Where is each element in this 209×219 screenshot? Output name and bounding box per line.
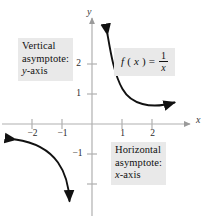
horizontal-asymptote-line3: x-axis xyxy=(115,169,162,182)
vertical-asymptote-line2: asymptote: xyxy=(22,53,69,66)
function-equation-label: f(x) = 1 x xyxy=(114,48,175,76)
vertical-asymptote-line3: y-axis xyxy=(22,65,69,78)
horizontal-asymptote-axis-suffix: -axis xyxy=(120,169,141,180)
fraction-denominator: x xyxy=(159,62,168,72)
function-name: f xyxy=(121,56,124,67)
horizontal-asymptote-line2: asymptote: xyxy=(115,157,162,170)
y-tick-label-pos1: 1 xyxy=(73,88,84,98)
x-axis-label: x xyxy=(196,114,200,125)
vertical-asymptote-axis-suffix: -axis xyxy=(27,65,48,76)
function-arg-close: ) xyxy=(142,56,146,67)
function-fraction: 1 x xyxy=(159,51,168,72)
vertical-asymptote-line1: Vertical xyxy=(22,40,69,53)
function-equals-sign: = xyxy=(149,56,155,67)
fraction-numerator: 1 xyxy=(159,51,168,61)
x-tick-label-neg2: −2 xyxy=(24,128,41,138)
function-arg-open: ( xyxy=(127,56,131,67)
horizontal-asymptote-line1: Horizontal xyxy=(115,144,162,157)
vertical-asymptote-callout: Vertical asymptote: y-axis xyxy=(18,38,73,81)
x-tick-label-pos2: 2 xyxy=(147,128,158,138)
figure-graph-of-reciprocal-function: y x −2 −1 1 2 2 1 −1 Vertical asymptote:… xyxy=(0,0,209,219)
function-equation-row: f(x) = 1 x xyxy=(121,51,168,72)
curve-branch-quadrant-three xyxy=(16,140,70,202)
y-tick-label-neg1: −1 xyxy=(69,148,86,158)
x-tick-label-neg1: −1 xyxy=(54,128,71,138)
horizontal-asymptote-callout: Horizontal asymptote: x-axis xyxy=(111,142,166,185)
function-arg: x xyxy=(134,56,139,67)
y-tick-label-pos2: 2 xyxy=(73,58,84,68)
plot-canvas xyxy=(0,0,209,219)
y-axis-label: y xyxy=(87,6,91,17)
x-tick-label-pos1: 1 xyxy=(117,128,128,138)
